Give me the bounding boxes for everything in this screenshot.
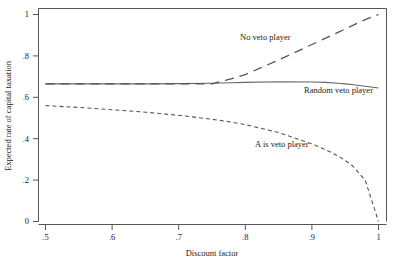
series-line-no-veto-player xyxy=(46,15,379,84)
y-tick-label-0.8: .8 xyxy=(23,51,29,61)
y-axis-tick-labels: 0 .2 .4 .6 .8 1 xyxy=(23,9,30,226)
series-line-a-is-veto-player xyxy=(46,106,379,222)
x-tick-label-0.5: .5 xyxy=(42,232,48,242)
x-tick-label-0.9: .9 xyxy=(309,232,315,242)
x-axis-ticks xyxy=(46,225,379,231)
series-group xyxy=(46,15,379,222)
chart-figure: 0 .2 .4 .6 .8 1 .5 .6 .7 .8 .9 1 Discoun… xyxy=(0,0,400,266)
y-tick-label-0: 0 xyxy=(25,216,29,226)
y-tick-label-0.6: .6 xyxy=(23,92,29,102)
y-tick-label-1: 1 xyxy=(25,9,29,19)
y-tick-label-0.4: .4 xyxy=(23,134,30,144)
plot-frame xyxy=(39,9,387,222)
y-axis-title: Expected rate of capital taxation xyxy=(3,60,13,171)
chart-canvas: 0 .2 .4 .6 .8 1 .5 .6 .7 .8 .9 1 Discoun… xyxy=(0,0,400,266)
annotation-a-is-veto-player: A is veto player xyxy=(255,139,309,149)
x-axis-title: Discount factor xyxy=(186,248,239,258)
x-tick-label-0.8: .8 xyxy=(242,232,248,242)
x-tick-label-0.7: .7 xyxy=(176,232,182,242)
x-tick-label-0.6: .6 xyxy=(109,232,115,242)
x-axis-tick-labels: .5 .6 .7 .8 .9 1 xyxy=(42,232,380,242)
x-tick-label-1: 1 xyxy=(376,232,380,242)
annotation-random-veto-player: Random veto player xyxy=(304,85,373,95)
annotation-no-veto-player: No veto player xyxy=(240,32,291,42)
y-axis-ticks xyxy=(33,15,39,222)
series-annotations: No veto player Random veto player A is v… xyxy=(240,32,373,149)
y-tick-label-0.2: .2 xyxy=(23,175,29,185)
